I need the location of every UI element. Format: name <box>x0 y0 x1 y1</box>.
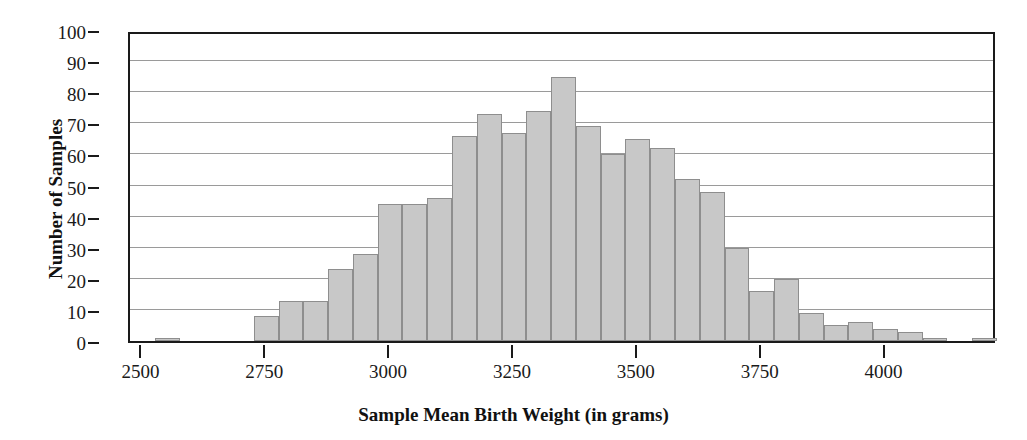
x-tick-mark <box>635 345 637 358</box>
x-tick-label: 3000 <box>369 361 407 383</box>
y-tick-label: 80 <box>67 85 86 104</box>
histogram-bar <box>675 179 700 341</box>
y-tick-mark <box>88 155 99 157</box>
histogram-bar <box>923 338 948 341</box>
y-tick-label: 10 <box>67 302 86 321</box>
x-tick-mark <box>511 345 513 358</box>
x-tick-label: 3750 <box>741 361 779 383</box>
histogram-bar <box>526 111 551 341</box>
histogram-bar <box>427 198 452 341</box>
x-tick-mark <box>387 345 389 358</box>
x-tick-label: 2750 <box>245 361 283 383</box>
x-axis-title: Sample Mean Birth Weight (in grams) <box>0 404 1027 426</box>
histogram-bar <box>452 136 477 341</box>
histogram-bar <box>279 301 304 341</box>
histogram-bar <box>873 329 898 341</box>
y-tick-label: 20 <box>67 271 86 290</box>
histogram-bar <box>477 114 502 341</box>
histogram-bar <box>774 279 799 341</box>
y-tick-label: 40 <box>67 209 86 228</box>
histogram-bar <box>254 316 279 341</box>
y-tick-mark <box>88 187 99 189</box>
histogram-bar <box>378 204 403 341</box>
histogram-bar <box>576 126 601 341</box>
histogram-bar <box>824 325 849 341</box>
y-tick-mark <box>88 218 99 220</box>
x-tick-mark <box>883 345 885 358</box>
histogram-figure: Number of Samples 0102030405060708090100… <box>0 0 1027 440</box>
histogram-bar <box>650 148 675 341</box>
histogram-bar <box>625 139 650 341</box>
x-tick-mark <box>263 345 265 358</box>
histogram-bars <box>130 34 993 341</box>
histogram-bar <box>601 154 626 341</box>
histogram-bar <box>155 338 180 341</box>
y-tick-label: 70 <box>67 116 86 135</box>
x-axis: 2500275030003250350037504000 <box>0 343 1027 403</box>
y-tick-mark <box>88 280 99 282</box>
x-tick-label: 3500 <box>617 361 655 383</box>
y-tick-label: 30 <box>67 240 86 259</box>
y-tick-mark <box>88 62 99 64</box>
x-tick-label: 3250 <box>493 361 531 383</box>
histogram-bar <box>700 192 725 341</box>
y-tick-mark <box>88 31 99 33</box>
x-tick-mark <box>139 345 141 358</box>
histogram-bar <box>898 332 923 341</box>
histogram-bar <box>972 338 997 341</box>
x-tick-label: 4000 <box>865 361 903 383</box>
histogram-bar <box>725 248 750 341</box>
y-tick-label: 50 <box>67 178 86 197</box>
plot-area <box>128 32 995 343</box>
y-tick-mark <box>88 124 99 126</box>
y-tick-mark <box>88 93 99 95</box>
histogram-bar <box>328 269 353 341</box>
histogram-bar <box>551 77 576 341</box>
histogram-bar <box>749 291 774 341</box>
x-tick-label: 2500 <box>121 361 159 383</box>
y-tick-label: 90 <box>67 54 86 73</box>
y-tick-mark <box>88 249 99 251</box>
x-tick-mark <box>759 345 761 358</box>
y-tick-label: 60 <box>67 147 86 166</box>
histogram-bar <box>848 322 873 341</box>
histogram-bar <box>799 313 824 341</box>
y-tick-mark <box>88 311 99 313</box>
histogram-bar <box>502 133 527 341</box>
histogram-bar <box>303 301 328 341</box>
histogram-bar <box>353 254 378 341</box>
histogram-bar <box>402 204 427 341</box>
y-tick-label: 100 <box>58 23 87 42</box>
